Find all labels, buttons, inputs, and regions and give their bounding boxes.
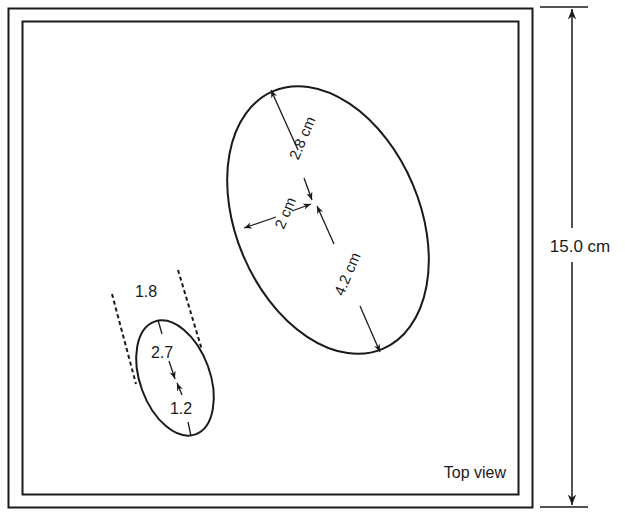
large-ellipse — [189, 55, 468, 385]
outer-frame — [9, 9, 533, 508]
upper-segment-label: 2.7 — [151, 344, 173, 361]
upper-semi-axis-label: 2.8 cm — [285, 114, 318, 162]
view-label: Top view — [444, 464, 507, 481]
large-ellipse-group: 2.8 cm 2 cm 4.2 cm — [189, 55, 468, 385]
minor-semi-axis-label: 2 cm — [271, 195, 299, 232]
lower-segment-label: 1.2 — [170, 400, 192, 417]
height-dimension: 15.0 cm — [540, 7, 610, 507]
height-label: 15.0 cm — [550, 237, 610, 256]
small-ellipse-group: 1.8 2.7 1.2 — [112, 270, 228, 446]
small-width-label: 1.8 — [135, 283, 157, 300]
top-view-diagram: 15.0 cm 2.8 cm 2 cm 4.2 cm 1.8 2.7 1.2 T… — [0, 0, 625, 528]
lower-semi-axis-label: 4.2 cm — [330, 250, 363, 298]
